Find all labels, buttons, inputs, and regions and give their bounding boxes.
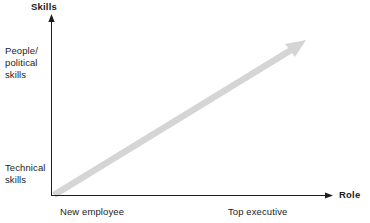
y-axis-label-people-political-skills: People/politicalskills — [5, 45, 38, 81]
y-label-low-line-1: Technical — [5, 162, 46, 173]
x-axis-arrowhead-icon — [325, 192, 333, 198]
y-label-low-line-2: skills — [5, 174, 26, 185]
x-axis-label-top-executive: Top executive — [228, 206, 287, 218]
chart-canvas — [0, 0, 370, 223]
x-axis-title: Role — [339, 189, 360, 201]
y-label-high-line-2: political — [5, 57, 38, 68]
y-axis-label-technical-skills: Technicalskills — [5, 162, 46, 186]
skills-vs-role-diagram: Skills Role People/politicalskills Techn… — [0, 0, 370, 223]
trend-arrow-shaft — [54, 47, 296, 195]
y-axis-title: Skills — [31, 1, 57, 13]
y-axis-arrowhead-icon — [48, 14, 54, 22]
x-axis-label-new-employee: New employee — [60, 206, 124, 218]
x-axis — [52, 192, 334, 198]
y-label-high-line-1: People/ — [5, 45, 38, 56]
trend-arrow — [54, 40, 306, 195]
y-label-high-line-3: skills — [5, 69, 26, 80]
y-axis — [48, 14, 54, 196]
